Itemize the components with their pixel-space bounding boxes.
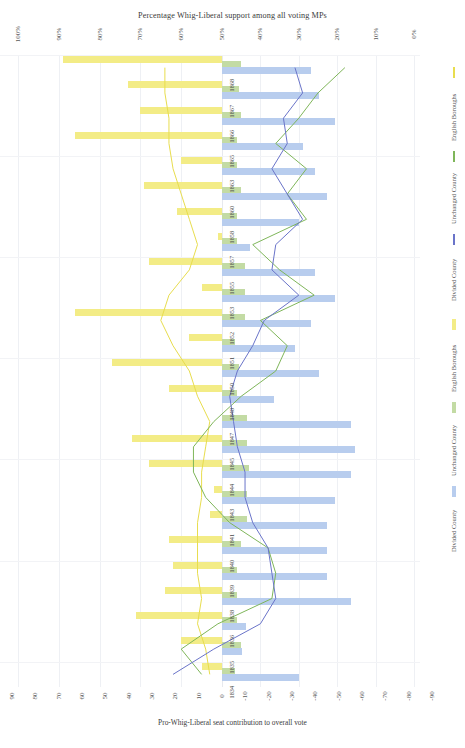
bar-english-boroughs: [169, 385, 222, 392]
bottom-axis-tick: 40: [125, 693, 133, 700]
row-label-year: 1840: [228, 560, 235, 572]
bar-divided-county: [222, 219, 299, 226]
bar-divided-county: [222, 446, 355, 453]
legend-box-swatch: [452, 402, 456, 413]
top-axis: 100%90%80%70%60%50%40%30%20%10%0%: [0, 28, 465, 54]
bar-english-boroughs: [181, 637, 222, 644]
bar-english-boroughs: [75, 309, 222, 316]
top-axis-tick: 60%: [177, 28, 185, 41]
legend-label: English Boroughs: [450, 345, 457, 392]
chart-row: 1858: [0, 207, 420, 232]
bottom-axis-title: Pro-Whig-Liberal seat contribution to ov…: [0, 718, 465, 727]
bar-divided-county: [222, 370, 319, 377]
row-label-year: 1855: [228, 282, 235, 294]
row-label-year: 1847: [228, 433, 235, 445]
bar-english-boroughs: [214, 486, 222, 493]
row-label-year: 1834: [228, 686, 235, 698]
chart-row: 1838: [0, 586, 420, 611]
bottom-axis-tick: 0: [218, 694, 226, 698]
bar-english-boroughs: [136, 612, 222, 619]
row-label-year: 1844: [228, 484, 235, 496]
row-label-year: 1835: [228, 661, 235, 673]
bottom-axis-tick: 70: [55, 693, 63, 700]
bar-english-boroughs: [177, 208, 222, 215]
row-label-year: 1843: [228, 509, 235, 521]
bar-divided-county: [222, 320, 311, 327]
bar-divided-county: [222, 67, 311, 74]
bottom-axis-tick: -60: [358, 691, 366, 700]
top-axis-tick: 100%: [14, 26, 22, 42]
bar-divided-county: [222, 168, 315, 175]
chart-row: 1851: [0, 333, 420, 358]
legend-line-swatch: [453, 67, 455, 78]
bottom-axis-tick: 20: [171, 693, 179, 700]
bottom-axis-tick: 10: [195, 693, 203, 700]
chart-row: 1841: [0, 510, 420, 535]
chart-row: 1868: [0, 55, 420, 80]
row-label-year: 1853: [228, 307, 235, 319]
legend-box-swatch: [452, 486, 456, 497]
legend-box-swatch: [452, 319, 456, 330]
bar-divided-county: [222, 193, 327, 200]
chart-row: 1845: [0, 434, 420, 459]
top-axis-tick: 90%: [55, 28, 63, 41]
bottom-axis-tick: 80: [31, 693, 39, 700]
page-title: Percentage Whig-Liberal support among al…: [0, 11, 465, 20]
bar-english-boroughs: [181, 157, 222, 164]
bottom-axis-tick: -50: [335, 691, 343, 700]
bottom-axis-tick: -40: [311, 691, 319, 700]
bar-english-boroughs: [63, 56, 222, 63]
bottom-axis-tick: 60: [78, 693, 86, 700]
chart-row: 1834: [0, 662, 420, 687]
bottom-axis-tick: -90: [428, 691, 436, 700]
bar-english-boroughs: [173, 562, 222, 569]
row-label-year: 1860: [228, 206, 235, 218]
chart-row: 1863: [0, 156, 420, 181]
bar-english-boroughs: [75, 132, 222, 139]
chart-row: 1860: [0, 181, 420, 206]
top-axis-tick: 80%: [96, 28, 104, 41]
chart-row: 1853: [0, 283, 420, 308]
top-axis-tick: 20%: [333, 28, 341, 41]
bar-english-boroughs: [140, 107, 222, 114]
top-axis-tick: 40%: [256, 28, 264, 41]
legend-label: Divided County: [450, 510, 457, 552]
bar-english-boroughs: [169, 536, 222, 543]
row-label-year: 1848: [228, 408, 235, 420]
row-label-year: 1867: [228, 105, 235, 117]
chart-page: Percentage Whig-Liberal support among al…: [0, 0, 465, 748]
row-label-year: 1863: [228, 180, 235, 192]
row-label-year: 1868: [228, 79, 235, 91]
bar-divided-county: [222, 497, 335, 504]
bar-english-boroughs: [149, 460, 222, 467]
row-label-year: 1852: [228, 332, 235, 344]
legend-label: Divided County: [450, 258, 457, 300]
row-label-year: 1838: [228, 610, 235, 622]
bar-divided-county: [222, 522, 327, 529]
bar-divided-county: [222, 421, 351, 428]
chart-row: 1835: [0, 636, 420, 661]
chart-row: 1848: [0, 384, 420, 409]
legend: English BoroughsUnchanged CountyDivided …: [420, 55, 465, 687]
chart-row: 1844: [0, 459, 420, 484]
bar-english-boroughs: [202, 284, 222, 291]
bar-divided-county: [222, 118, 335, 125]
legend-line-swatch: [453, 234, 455, 245]
chart-row: 1850: [0, 358, 420, 383]
bottom-axis-tick: -30: [288, 691, 296, 700]
bar-divided-county: [222, 648, 242, 655]
bottom-axis-tick: 50: [101, 693, 109, 700]
bottom-axis-tick: -70: [381, 691, 389, 700]
top-axis-tick: 70%: [136, 28, 144, 41]
bottom-axis-tick: -20: [265, 691, 273, 700]
row-label-year: 1836: [228, 635, 235, 647]
row-label-year: 1839: [228, 585, 235, 597]
legend-label: Unchanged County: [450, 425, 457, 476]
chart-row: 1836: [0, 611, 420, 636]
bar-divided-county: [222, 598, 351, 605]
bar-divided-county: [222, 547, 327, 554]
bar-english-boroughs: [144, 182, 222, 189]
bar-divided-county: [222, 345, 295, 352]
bar-divided-county: [222, 92, 319, 99]
bar-divided-county: [222, 269, 315, 276]
